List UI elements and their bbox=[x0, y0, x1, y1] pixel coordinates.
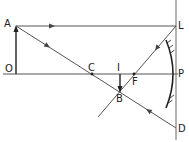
label-O: O bbox=[5, 64, 13, 74]
label-D: D bbox=[178, 124, 186, 134]
label-P: P bbox=[178, 69, 184, 79]
label-C: C bbox=[88, 63, 95, 73]
label-B: B bbox=[116, 94, 123, 104]
ray-A-through-C-to-D bbox=[16, 26, 176, 128]
ray-arrow-up-left-icon bbox=[146, 109, 152, 114]
point-F bbox=[133, 73, 136, 76]
ray-arrow-right-icon bbox=[49, 24, 55, 29]
point-C bbox=[91, 73, 94, 76]
label-I: I bbox=[117, 63, 120, 73]
ray-diagram: A O C I F B P L D bbox=[0, 0, 189, 142]
label-F: F bbox=[132, 77, 138, 87]
label-L: L bbox=[178, 21, 184, 31]
label-A: A bbox=[4, 19, 11, 29]
